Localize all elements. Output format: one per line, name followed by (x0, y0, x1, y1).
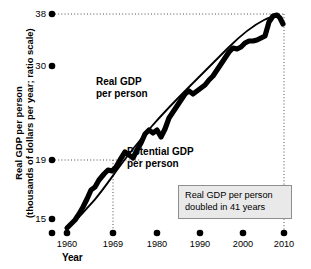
ytick-dot-19 (49, 157, 56, 164)
ytick-dot-30 (49, 63, 56, 70)
series-label-real-gdp-text2: per person (96, 88, 148, 99)
xtick-dot-2000 (240, 230, 247, 237)
xtick-dot-1969 (110, 230, 117, 237)
annotation-line1: Real GDP per person (185, 190, 286, 202)
xtick-dot-2010 (281, 230, 288, 237)
xtick-label-1990: 1990 (180, 239, 220, 249)
y-axis-title-line2: (thousands of dollars per year; ratio sc… (24, 48, 35, 218)
xtick-label-1969: 1969 (93, 239, 133, 249)
annotation-line2: doubled in 41 years (185, 202, 286, 214)
ytick-label-38: 38 (16, 8, 46, 19)
xtick-dot-1980 (154, 230, 161, 237)
xtick-dot-1990 (197, 230, 204, 237)
ytick-dot-15 (49, 216, 56, 223)
ytick-dot-origin (49, 230, 56, 237)
series-label-potential-gdp-text1: Potential GDP (127, 146, 194, 157)
xtick-label-1980: 1980 (137, 239, 177, 249)
xtick-label-2010: 2010 (264, 239, 304, 249)
ytick-label-15: 15 (16, 213, 46, 224)
x-axis-title: Year (62, 252, 82, 263)
series-label-real-gdp-text1: Real GDP (96, 76, 142, 87)
xtick-dot-1960 (64, 230, 71, 237)
chart-plot-area (0, 0, 311, 269)
series-label-potential-gdp: Potential GDP per person Potential GDP p… (127, 146, 194, 170)
y-axis-title-line1: Real GDP per person (13, 48, 24, 218)
series-label-real-gdp: Real GDP per person Real GDP per person (96, 76, 148, 100)
ytick-dot-38 (49, 11, 56, 18)
y-axis-title: Real GDP per person (thousands of dollar… (13, 48, 43, 218)
series-label-potential-gdp-text2: per person (127, 158, 179, 169)
annotation-doubling-note: Real GDP per person doubled in 41 years (178, 185, 292, 219)
ytick-label-30: 30 (16, 60, 46, 71)
ytick-label-19: 19 (16, 154, 46, 165)
xtick-label-2000: 2000 (223, 239, 263, 249)
xtick-label-1960: 1960 (47, 239, 87, 249)
chart-figure: Real GDP per person (thousands of dollar… (0, 0, 311, 269)
